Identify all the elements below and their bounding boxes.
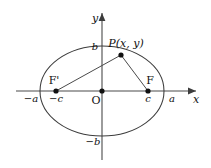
x-axis-label: x — [193, 93, 200, 106]
point-p-label: P(x, y) — [107, 37, 143, 50]
vertex-left-label: −a — [24, 93, 38, 104]
segment-right-focus-to-p — [121, 55, 148, 91]
y-axis-arrowhead — [99, 13, 106, 21]
point-p-marker — [118, 52, 123, 57]
focus-left-value-label: −c — [49, 93, 63, 104]
vertex-right-label: a — [169, 93, 175, 104]
focus-right-value-label: c — [145, 93, 151, 104]
origin-marker — [99, 88, 104, 93]
covertex-top-label: b — [92, 41, 98, 52]
segment-left-focus-to-p — [56, 55, 121, 91]
covertex-bottom-label: −b — [86, 136, 101, 147]
y-axis-label: y — [91, 12, 99, 25]
ellipse-figure: P(x, y) F F' O a −a c −c b −b y x — [0, 0, 211, 168]
ellipse-diagram-canvas: P(x, y) F F' O a −a c −c b −b y x — [0, 0, 211, 168]
focus-right-label: F — [146, 74, 154, 87]
origin-label: O — [91, 94, 100, 107]
focus-left-label: F' — [49, 74, 60, 87]
